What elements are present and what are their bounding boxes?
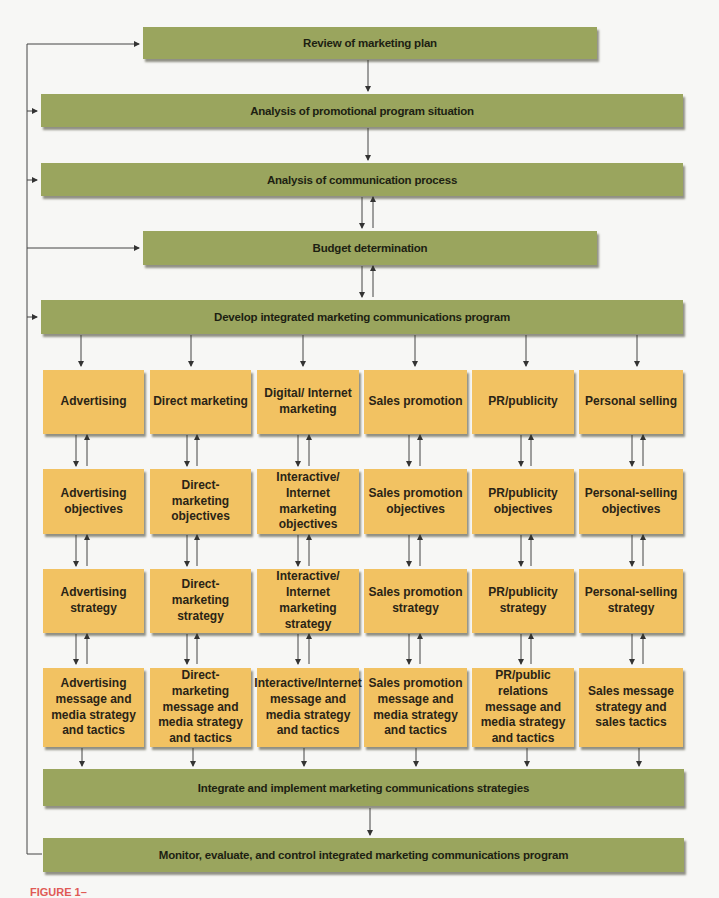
- step-monitor-evaluate-control: Monitor, evaluate, and control integrate…: [43, 838, 684, 872]
- element-pr-publicity: PR/publicity: [472, 370, 574, 434]
- objectives-pr-publicity: PR/publicity objectives: [472, 469, 574, 534]
- tactics-direct-marketing: Direct-marketing message and media strat…: [150, 668, 251, 747]
- figure-caption: FIGURE 1–: [30, 886, 87, 898]
- step-budget-determination: Budget determination: [143, 231, 597, 265]
- strategy-direct-marketing: Direct-marketing strategy: [150, 569, 251, 633]
- tactics-sales-promotion: Sales promotion message and media strate…: [364, 668, 467, 747]
- objectives-direct-marketing: Direct-marketing objectives: [150, 469, 251, 534]
- step-develop-imc-program: Develop integrated marketing communicati…: [41, 300, 683, 334]
- objectives-advertising: Advertising objectives: [43, 469, 144, 534]
- objectives-interactive-internet: Interactive/ Internet marketing objectiv…: [257, 469, 359, 534]
- element-direct-marketing: Direct marketing: [150, 370, 251, 434]
- objectives-personal-selling: Personal-selling objectives: [579, 469, 683, 534]
- element-advertising: Advertising: [43, 370, 144, 434]
- step-analysis-communication-process: Analysis of communication process: [41, 163, 683, 196]
- step-integrate-implement: Integrate and implement marketing commun…: [43, 769, 684, 806]
- element-digital-internet-marketing: Digital/ Internet marketing: [257, 370, 359, 434]
- strategy-pr-publicity: PR/publicity strategy: [472, 569, 574, 633]
- strategy-advertising: Advertising strategy: [43, 569, 144, 633]
- feedback-arrow-review: [27, 44, 139, 59]
- tactics-personal-selling: Sales message strategy and sales tactics: [579, 668, 683, 747]
- step-analysis-promotional-situation: Analysis of promotional program situatio…: [41, 94, 683, 127]
- tactics-interactive-internet: Interactive/Internet message and media s…: [257, 668, 359, 747]
- strategy-sales-promotion: Sales promotion strategy: [364, 569, 467, 633]
- objectives-sales-promotion: Sales promotion objectives: [364, 469, 467, 534]
- tactics-advertising: Advertising message and media strategy a…: [43, 668, 144, 747]
- element-personal-selling: Personal selling: [579, 370, 683, 434]
- strategy-personal-selling: Personal-selling strategy: [579, 569, 683, 633]
- element-sales-promotion: Sales promotion: [364, 370, 467, 434]
- step-review-marketing-plan: Review of marketing plan: [143, 27, 597, 59]
- tactics-pr-public-relations: PR/public relations message and media st…: [472, 668, 574, 747]
- strategy-interactive-internet: Interactive/ Internet marketing strategy: [257, 569, 359, 633]
